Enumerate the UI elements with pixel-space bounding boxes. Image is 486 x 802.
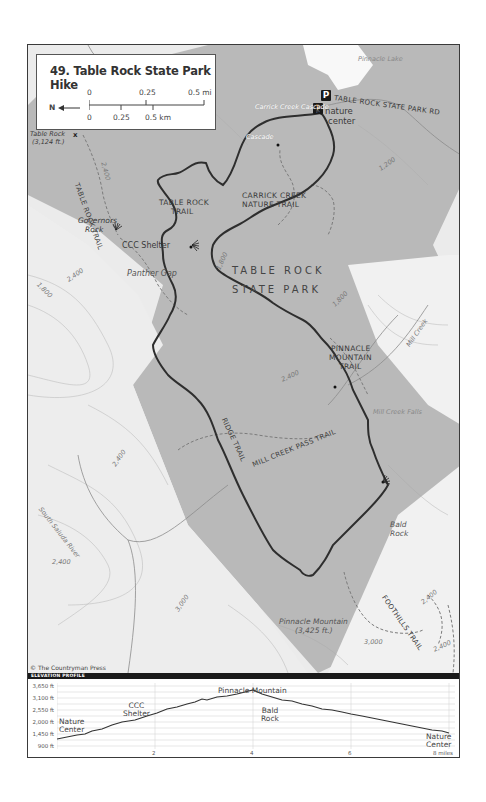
elevation-profile: 3,650 ft 3,100 ft 2,550 ft 2,000 ft 1,45…	[28, 679, 459, 758]
north-label: N	[49, 103, 55, 112]
label-mill-creek-falls: Mill Creek Falls	[373, 409, 422, 416]
north-arrow-icon	[58, 104, 80, 112]
scale-bar	[89, 98, 209, 112]
scale-mi-05: 0.5 mi	[188, 88, 212, 97]
label-pinnacle-mountain-elev: (3,425 ft.)	[295, 627, 333, 635]
contour-label: 3,000	[364, 639, 383, 646]
label-pinnacle-mountain: Pinnacle Mountain	[279, 618, 348, 626]
contour-label: 2,400	[52, 559, 71, 566]
label-table-rock-trail-2: TRAIL	[171, 208, 194, 216]
label-governors-rock-1: Governors	[78, 217, 117, 225]
x-tick: 4	[250, 750, 254, 756]
y-tick: 2,000 ft	[30, 719, 54, 725]
map-title-box: 49. Table Rock State Park Hike N 0 0.25 …	[36, 54, 216, 130]
waypoint-ccc-shelter: CCC Shelter	[123, 702, 150, 718]
waypoint-pinnacle-mountain: Pinnacle Mountain	[218, 687, 287, 695]
y-tick: 900 ft	[30, 743, 54, 749]
label-carrick-creek-nt-1: CARRICK CREEK	[242, 192, 306, 200]
label-nature-center-1: nature	[325, 107, 353, 116]
scale-mi-0: 0	[87, 88, 92, 97]
copyright: © The Countryman Press	[30, 664, 106, 671]
label-pinnacle-mtn-trail-1: PINNACLE	[331, 345, 371, 353]
waypoint-bald-rock: Bald Rock	[261, 707, 279, 723]
waypoint-start: Nature Center	[59, 718, 84, 734]
label-cascade: Cascade	[246, 134, 274, 141]
scale-km-05: 0.5 km	[145, 113, 171, 122]
label-carrick-creek-nt-2: NATURE TRAIL	[242, 201, 299, 209]
label-carrick-creek-cascade: Carrick Creek Cascade	[255, 104, 329, 111]
y-tick: 3,100 ft	[30, 695, 54, 701]
y-tick: 3,650 ft	[30, 683, 54, 689]
scale-km-0: 0	[87, 113, 92, 122]
label-pinnacle-lake: Pinnacle Lake	[358, 56, 403, 63]
x-tick: 2	[152, 750, 156, 756]
label-bald-rock-2: Rock	[390, 530, 408, 538]
label-panther-gap: Panther Gap	[127, 270, 177, 278]
label-pinnacle-mtn-trail-3: TRAIL	[339, 363, 362, 371]
label-table-rock-elev: (3,124 ft.)	[32, 139, 65, 146]
label-table-rock-peak: Table Rock	[30, 131, 65, 138]
y-tick: 1,450 ft	[30, 731, 54, 737]
x-tick: 6	[348, 750, 352, 756]
label-governors-rock-2: Rock	[85, 226, 103, 234]
scale-mi-025: 0.25	[139, 88, 156, 97]
label-ccc-shelter: CCC Shelter	[122, 242, 170, 250]
label-park-1: TABLE ROCK	[232, 266, 324, 276]
parking-icon: P	[321, 90, 331, 101]
y-tick: 2,550 ft	[30, 707, 54, 713]
label-nature-center-2: center	[328, 117, 355, 126]
map-frame: x 49. Table Rock State Park Hike N 0 0.2…	[27, 44, 460, 758]
topo-map: x	[28, 45, 460, 673]
label-table-rock-trail-1: TABLE ROCK	[159, 199, 209, 207]
scale-km-025: 0.25	[113, 113, 130, 122]
label-bald-rock-1: Bald	[390, 521, 407, 529]
label-pinnacle-mtn-trail-2: MOUNTAIN	[329, 354, 372, 362]
waypoint-end: Nature Center	[426, 733, 451, 749]
svg-text:x: x	[73, 131, 78, 139]
label-park-2: STATE PARK	[232, 285, 321, 295]
x-tick: 8 miles	[433, 750, 453, 756]
